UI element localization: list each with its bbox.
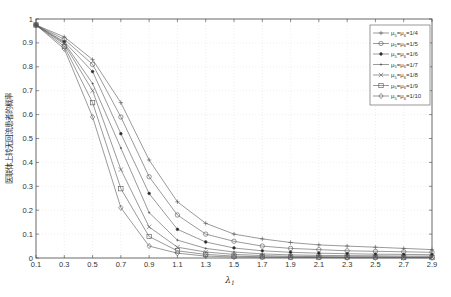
x-tick-label: 1.1 <box>172 260 182 269</box>
y-tick-label: 0.2 <box>23 206 33 215</box>
x-marker <box>90 89 94 93</box>
point-marker <box>380 64 381 65</box>
plus-marker <box>147 158 151 162</box>
point-marker <box>205 248 206 249</box>
x-tick-label: 2.7 <box>398 260 408 269</box>
x-tick-label: 2.3 <box>342 260 352 269</box>
plus-marker <box>260 237 264 241</box>
point-marker <box>92 83 93 84</box>
x-marker <box>147 225 151 229</box>
x-tick-label: 2.9 <box>427 260 437 269</box>
dot-marker <box>233 247 236 250</box>
point-marker <box>233 251 234 252</box>
plus-marker <box>317 243 321 247</box>
dot-marker <box>380 53 383 56</box>
y-tick-label: 0.6 <box>23 110 33 119</box>
y-tick-label: 1 <box>29 15 33 24</box>
legend: μ5=μ6=1/4μ5=μ6=1/5μ5=μ6=1/6μ5=μ6=1/7μ5=μ… <box>370 25 430 105</box>
y-tick-label: 0 <box>29 254 33 263</box>
dot-marker <box>204 241 207 244</box>
dot-marker <box>176 228 179 231</box>
x-tick-label: 0.5 <box>87 260 97 269</box>
y-tick-label: 0.7 <box>23 86 33 95</box>
dot-marker <box>91 70 94 73</box>
dot-marker <box>261 249 264 252</box>
x-marker <box>119 167 123 171</box>
x-axis-label-sub: 1 <box>231 279 235 286</box>
y-tick-label: 0.9 <box>23 38 33 47</box>
x-tick-label: 0.9 <box>144 260 154 269</box>
dot-marker <box>289 251 292 254</box>
x-tick-label: 2.5 <box>370 260 380 269</box>
y-axis-label: 医联体上转无回流患者的概率 <box>4 92 14 184</box>
x-tick-label: 1.5 <box>229 260 239 269</box>
plus-marker <box>232 232 236 236</box>
dot-marker <box>317 252 320 255</box>
x-tick-label: 0.3 <box>59 260 69 269</box>
plus-marker <box>373 245 377 249</box>
x-tick-label: 0.7 <box>116 260 126 269</box>
y-tick-label: 0.1 <box>23 230 33 239</box>
x-axis-label-main: λ <box>224 275 231 285</box>
plus-marker <box>175 200 179 204</box>
x-tick-label: 1.9 <box>285 260 295 269</box>
plus-marker <box>119 100 123 104</box>
point-marker <box>148 212 149 213</box>
x-tick-label: 2.1 <box>314 260 324 269</box>
x-axis-label: λ1 <box>224 275 235 286</box>
dot-marker <box>119 132 122 135</box>
x-tick-label: 1.7 <box>257 260 267 269</box>
point-marker <box>120 147 121 148</box>
y-tick-label: 0.8 <box>23 62 33 71</box>
plus-marker <box>288 240 292 244</box>
dot-marker <box>148 192 151 195</box>
plus-marker <box>345 244 349 248</box>
y-tick-label: 0.5 <box>23 134 33 143</box>
point-marker <box>177 239 178 240</box>
x-tick-label: 1.3 <box>200 260 210 269</box>
plus-marker <box>430 247 434 251</box>
line-chart: 0.10.30.50.70.91.11.31.51.71.92.12.32.52… <box>0 0 451 297</box>
y-tick-label: 0.4 <box>23 158 33 167</box>
y-tick-label: 0.3 <box>23 182 33 191</box>
